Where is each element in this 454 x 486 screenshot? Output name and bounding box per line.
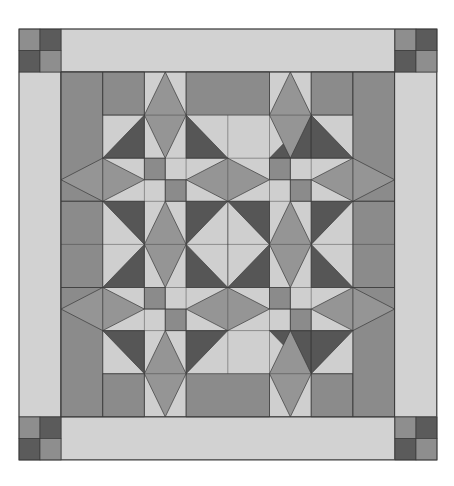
medium-patch xyxy=(103,374,145,417)
corner-top-right xyxy=(395,29,437,72)
medium-patch xyxy=(270,158,291,180)
medium-patch xyxy=(270,288,291,310)
medium-patch xyxy=(144,288,165,310)
medium-patch xyxy=(311,72,353,115)
corner-bottom-left xyxy=(19,417,61,460)
medium-patch xyxy=(165,180,186,202)
medium-patch xyxy=(165,309,186,331)
corner-top-left xyxy=(19,29,61,72)
medium-patch xyxy=(144,158,165,180)
quilt-canvas xyxy=(0,0,454,486)
medium-patch xyxy=(103,72,145,115)
corner-bottom-right xyxy=(395,417,437,460)
medium-patch xyxy=(311,374,353,417)
medium-patch xyxy=(186,72,269,115)
medium-patch xyxy=(186,374,269,417)
medium-patch xyxy=(290,309,311,331)
medium-patch xyxy=(290,180,311,202)
